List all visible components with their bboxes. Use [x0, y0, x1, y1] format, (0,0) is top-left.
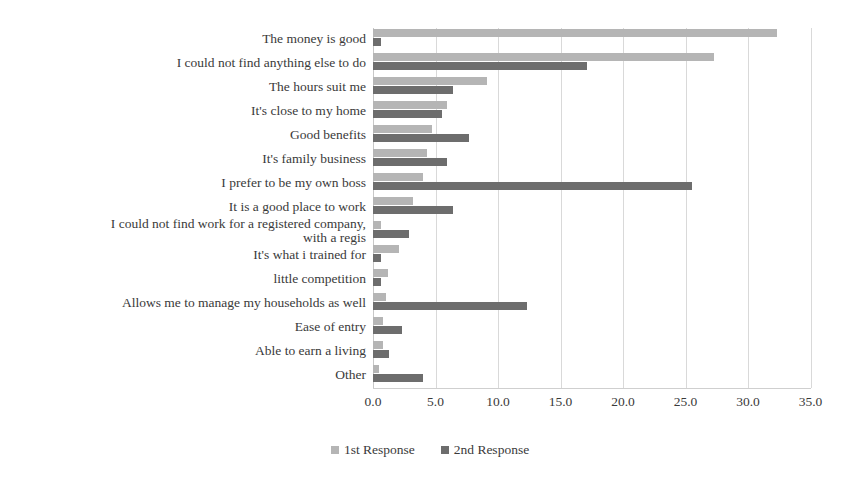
category-label: It's what i trained for	[6, 248, 366, 262]
bar-row	[373, 100, 811, 124]
bar-first-response	[373, 77, 487, 85]
bar-second-response	[373, 278, 381, 286]
bar-row	[373, 196, 811, 220]
bar-first-response	[373, 341, 383, 349]
bar-second-response	[373, 62, 587, 70]
x-axis-line	[373, 388, 811, 389]
bar-second-response	[373, 350, 389, 358]
legend-swatch-icon	[441, 446, 449, 454]
category-label: Allows me to manage my households as wel…	[6, 296, 366, 310]
legend-label: 1st Response	[344, 442, 415, 458]
bar-row	[373, 268, 811, 292]
bar-second-response	[373, 326, 402, 334]
x-tick-label: 10.0	[486, 394, 510, 410]
x-tick-label: 25.0	[674, 394, 698, 410]
bar-chart: The money is goodI could not find anythi…	[0, 0, 860, 490]
bar-row	[373, 124, 811, 148]
bar-second-response	[373, 374, 423, 382]
bar-row	[373, 244, 811, 268]
bar-second-response	[373, 230, 409, 238]
category-label: Other	[6, 368, 366, 382]
bar-second-response	[373, 158, 447, 166]
bar-row	[373, 340, 811, 364]
x-tick-label: 15.0	[549, 394, 573, 410]
gridline-35.0	[811, 28, 812, 388]
bar-second-response	[373, 302, 527, 310]
category-label: The money is good	[6, 32, 366, 46]
bar-row	[373, 76, 811, 100]
x-tick-label: 5.0	[427, 394, 444, 410]
bar-first-response	[373, 173, 423, 181]
bar-first-response	[373, 245, 399, 253]
bar-first-response	[373, 221, 381, 229]
bar-second-response	[373, 38, 381, 46]
x-tick-label: 0.0	[365, 394, 382, 410]
bar-row	[373, 316, 811, 340]
category-label: The hours suit me	[6, 80, 366, 94]
bar-first-response	[373, 197, 413, 205]
bar-rows	[373, 28, 811, 388]
bar-first-response	[373, 125, 432, 133]
bar-row	[373, 220, 811, 244]
bar-first-response	[373, 365, 379, 373]
bar-second-response	[373, 134, 469, 142]
bar-first-response	[373, 53, 714, 61]
category-label: Ease of entry	[6, 320, 366, 334]
category-label: I could not find anything else to do	[6, 56, 366, 70]
category-axis-labels: The money is goodI could not find anythi…	[0, 28, 366, 388]
bar-first-response	[373, 269, 388, 277]
legend-label: 2nd Response	[454, 442, 529, 458]
x-tick-label: 30.0	[736, 394, 760, 410]
x-tick-label: 35.0	[799, 394, 823, 410]
bar-row	[373, 292, 811, 316]
bar-second-response	[373, 86, 453, 94]
category-label: I could not find work for a registered c…	[6, 217, 366, 245]
x-tick-label: 20.0	[611, 394, 635, 410]
bar-row	[373, 148, 811, 172]
bar-first-response	[373, 101, 447, 109]
legend-item[interactable]: 1st Response	[331, 442, 415, 458]
bar-second-response	[373, 206, 453, 214]
category-label: little competition	[6, 272, 366, 286]
chart-legend: 1st Response2nd Response	[0, 442, 860, 458]
bar-row	[373, 52, 811, 76]
bar-row	[373, 28, 811, 52]
category-label: Able to earn a living	[6, 344, 366, 358]
bar-second-response	[373, 254, 381, 262]
category-label: It's family business	[6, 152, 366, 166]
legend-item[interactable]: 2nd Response	[441, 442, 529, 458]
category-label: Good benefits	[6, 128, 366, 142]
bar-row	[373, 172, 811, 196]
bar-first-response	[373, 29, 777, 37]
legend-swatch-icon	[331, 446, 339, 454]
bar-first-response	[373, 293, 386, 301]
category-label: It is a good place to work	[6, 200, 366, 214]
bar-first-response	[373, 317, 383, 325]
category-label: It's close to my home	[6, 104, 366, 118]
category-label: I prefer to be my own boss	[6, 176, 366, 190]
bar-second-response	[373, 182, 692, 190]
bar-row	[373, 364, 811, 388]
bar-second-response	[373, 110, 442, 118]
bar-first-response	[373, 149, 427, 157]
